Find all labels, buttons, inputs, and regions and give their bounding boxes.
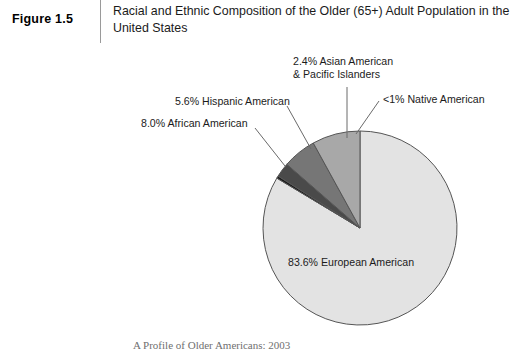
source-note: A Profile of Older Americans: 2003 bbox=[133, 339, 290, 351]
pie-slices bbox=[263, 131, 457, 325]
pie-chart-figure: 2.4% Asian American & Pacific Islanders … bbox=[0, 44, 526, 351]
callout-label-native-american: <1% Native American bbox=[383, 93, 485, 106]
leader-line-hispanic-american bbox=[287, 106, 311, 149]
callout-asian-line-1: 2.4% Asian American bbox=[293, 55, 393, 67]
leader-line-african-american bbox=[255, 128, 285, 166]
leader-line-native-american bbox=[356, 101, 379, 134]
callout-label-european-american: 83.6% European American bbox=[288, 256, 414, 268]
callout-label-hispanic-american: 5.6% Hispanic American bbox=[175, 95, 290, 108]
figure-header: Figure 1.5 Racial and Ethnic Composition… bbox=[0, 0, 526, 44]
callout-asian-line-2: & Pacific Islanders bbox=[293, 68, 380, 80]
figure-title-line-1: Racial and Ethnic Composition of the Old… bbox=[113, 4, 476, 18]
pie-chart-svg bbox=[0, 44, 526, 351]
callout-label-asian-american: 2.4% Asian American & Pacific Islanders bbox=[293, 55, 393, 81]
figure-title: Racial and Ethnic Composition of the Old… bbox=[113, 3, 513, 36]
callout-label-african-american: 8.0% African American bbox=[141, 117, 248, 130]
figure-number-label: Figure 1.5 bbox=[12, 12, 73, 26]
header-divider bbox=[100, 0, 101, 43]
